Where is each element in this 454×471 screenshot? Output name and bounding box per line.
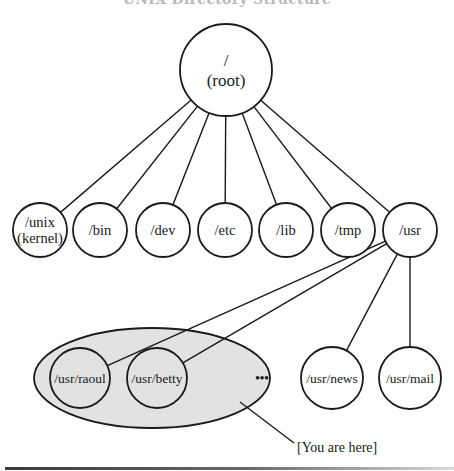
edge-usr-to-usr-news (346, 254, 397, 351)
node-label: /unix (25, 214, 56, 230)
edge-root-to-etc (225, 116, 226, 203)
node-label: /etc (215, 222, 236, 238)
node-label: / (224, 51, 229, 70)
directory-node-tmp: /tmp (321, 203, 375, 257)
node-label: /usr/raoul (54, 371, 106, 386)
node-label: (root) (207, 71, 246, 90)
directory-node-etc: /etc (198, 203, 252, 257)
more-directories-ellipsis: ••• (255, 370, 269, 385)
directory-node-unix: /unix(kernel) (13, 203, 67, 257)
node-label: /usr/betty (132, 371, 183, 386)
edge-root-to-unix (60, 100, 191, 212)
node-label: /bin (89, 222, 112, 238)
directory-node-usr-raoul: /usr/raoul (50, 348, 110, 408)
node-label: /tmp (335, 222, 362, 238)
directory-node-usr-news: /usr/news (301, 347, 363, 409)
inner-edges-layer (107, 241, 386, 366)
you-are-here-label: [You are here] (297, 440, 377, 455)
directory-node-usr: /usr (383, 203, 437, 257)
edge-root-to-bin (117, 106, 198, 209)
edge-root-to-tmp (254, 107, 332, 209)
node-label: /usr/mail (386, 371, 434, 386)
node-label: (kernel) (17, 230, 63, 247)
node-label: /lib (276, 222, 295, 238)
directory-node-dev: /dev (136, 203, 190, 257)
annotation-pointer-line (240, 402, 294, 443)
edge-root-to-dev (173, 113, 209, 205)
node-label: /usr/news (306, 371, 358, 386)
directory-node-root: /(root) (180, 24, 272, 116)
directory-node-bin: /bin (73, 203, 127, 257)
edge-root-to-usr (261, 100, 390, 212)
directory-node-usr-betty: /usr/betty (127, 348, 187, 408)
node-label: /dev (151, 222, 177, 238)
directory-tree-diagram: /(root)/unix(kernel)/bin/dev/etc/lib/tmp… (0, 0, 454, 471)
edge-root-to-lib (242, 113, 276, 205)
directory-node-lib: /lib (259, 203, 313, 257)
bottom-rule (5, 467, 454, 470)
directory-node-usr-mail: /usr/mail (379, 347, 441, 409)
edge-usr-to-usr-betty (183, 244, 387, 363)
node-label: /usr (399, 222, 421, 238)
